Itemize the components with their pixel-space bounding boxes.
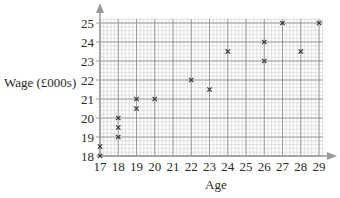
y-tick-label: 24 bbox=[81, 35, 95, 50]
y-tick-label: 20 bbox=[81, 111, 94, 126]
x-tick-label: 26 bbox=[258, 159, 272, 174]
y-axis-label: Wage (£000s) bbox=[4, 75, 76, 91]
x-tick-label: 22 bbox=[185, 159, 198, 174]
x-tick-label: 20 bbox=[148, 159, 161, 174]
x-axis-label: Age bbox=[205, 177, 227, 193]
x-tick-label: 19 bbox=[130, 159, 143, 174]
x-tick-label: 23 bbox=[203, 159, 216, 174]
x-axis-ticks: 17181920212223242526272829 bbox=[94, 159, 326, 174]
y-tick-label: 25 bbox=[81, 16, 94, 31]
x-tick-label: 28 bbox=[294, 159, 307, 174]
x-tick-label: 29 bbox=[313, 159, 326, 174]
y-tick-label: 22 bbox=[81, 73, 94, 88]
y-axis-ticks: 1819202122232425 bbox=[81, 16, 100, 164]
x-tick-label: 18 bbox=[112, 159, 125, 174]
x-tick-label: 27 bbox=[276, 159, 290, 174]
y-tick-label: 21 bbox=[81, 92, 94, 107]
scatter-plot: 1819202122232425 17181920212223242526272… bbox=[0, 0, 340, 198]
x-tick-label: 17 bbox=[94, 159, 108, 174]
x-tick-label: 21 bbox=[167, 159, 180, 174]
x-tick-label: 25 bbox=[240, 159, 253, 174]
x-tick-label: 24 bbox=[221, 159, 235, 174]
y-tick-label: 18 bbox=[81, 149, 94, 164]
y-tick-label: 23 bbox=[81, 54, 94, 69]
y-tick-label: 19 bbox=[81, 130, 94, 145]
